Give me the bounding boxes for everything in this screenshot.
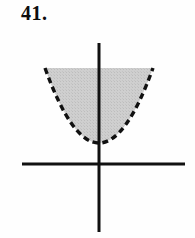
- coordinate-graph: [0, 0, 195, 238]
- figure-container: 41.: [0, 0, 195, 238]
